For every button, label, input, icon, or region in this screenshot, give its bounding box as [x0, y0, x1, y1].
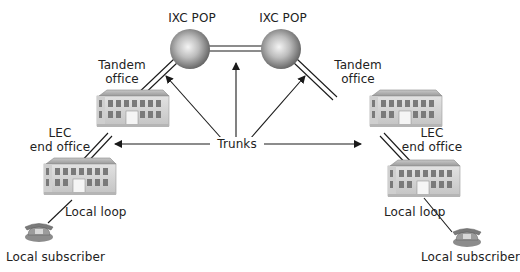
tandem-office-right-line2: office: [328, 72, 388, 86]
lec-end-office-right-line2: end office: [400, 140, 464, 154]
tandem-office-right-line1: Tandem: [328, 58, 388, 72]
tandem-office-right-building: [370, 90, 442, 127]
lec-end-office-right-line1: LEC: [400, 126, 464, 140]
trunks-label: Trunks: [211, 137, 263, 151]
local-subscriber-left-label: Local subscriber: [6, 250, 105, 264]
ixc-pop-left-label: IXC POP: [162, 11, 222, 25]
local-subscriber-right-label: Local subscriber: [421, 250, 520, 264]
lec-end-office-left-building: [44, 158, 116, 195]
tandem-office-left-line1: Tandem: [92, 58, 152, 72]
tandem-office-left-line2: office: [92, 72, 152, 86]
local-subscriber-left-phone: [25, 224, 53, 243]
lec-end-office-right-building: [388, 160, 460, 197]
local-loop-left-label: Local loop: [65, 205, 127, 219]
lec-end-office-left-label: LEC end office: [28, 126, 92, 154]
local-loop-right-label: Local loop: [384, 205, 446, 219]
ixc-pop-right-sphere: [261, 29, 301, 69]
ixc-pop-right-label: IXC POP: [253, 11, 313, 25]
tandem-office-left-building: [97, 90, 169, 127]
local-subscriber-right-phone: [453, 229, 481, 248]
lec-end-office-left-line1: LEC: [28, 126, 92, 140]
lec-end-office-right-label: LEC end office: [400, 126, 464, 154]
ixc-pop-left-sphere: [170, 29, 210, 69]
lec-end-office-left-line2: end office: [28, 140, 92, 154]
tandem-office-left-label: Tandem office: [92, 58, 152, 86]
tandem-office-right-label: Tandem office: [328, 58, 388, 86]
